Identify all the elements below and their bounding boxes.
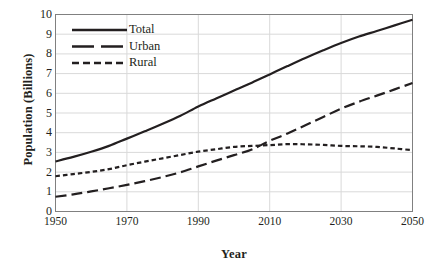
x-tick-label: 2030 [311, 216, 371, 228]
population-line-chart: 012345678910 195019701990201020302050 To… [0, 0, 433, 271]
y-axis-title: Population (Billions) [21, 20, 36, 200]
x-tick-label: 1990 [168, 216, 228, 228]
chart-canvas [0, 0, 433, 271]
legend-swatch-group [72, 30, 127, 63]
x-tick-label: 1970 [97, 216, 157, 228]
legend-label-urban: Urban [129, 40, 160, 53]
x-tick-label: 2010 [240, 216, 300, 228]
x-axis-title: Year [55, 247, 413, 262]
series-line-urban [56, 83, 413, 197]
x-tick-label: 2050 [383, 216, 433, 228]
legend-label-rural: Rural [129, 56, 157, 69]
series-line-rural [56, 144, 413, 176]
legend-label-total: Total [129, 23, 155, 36]
x-tick-label: 1950 [26, 216, 86, 228]
series-line-total [56, 20, 413, 162]
y-tick-label: 10 [30, 8, 52, 20]
